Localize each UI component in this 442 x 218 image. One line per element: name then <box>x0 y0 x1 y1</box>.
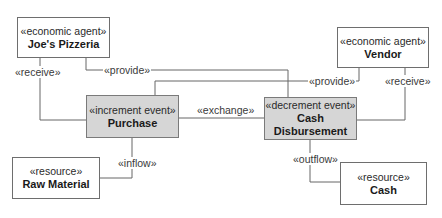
node-purchase[interactable]: «increment event» Purchase <box>86 95 179 138</box>
edge-label-outflow: «outflow» <box>292 153 339 165</box>
node-raw-material[interactable]: «resource» Raw Material <box>12 157 100 199</box>
node-cash[interactable]: «resource» Cash <box>340 162 427 205</box>
rea-diagram: «economic agent» Joe's Pizzeria «economi… <box>0 0 442 218</box>
stereotype-label: «economic agent» <box>340 35 426 48</box>
edge-label-vendor-provide: «provide» <box>308 75 356 87</box>
stereotype-label: «economic agent» <box>21 25 107 38</box>
node-vendor[interactable]: «economic agent» Vendor <box>337 27 429 68</box>
edge-label-inflow: «inflow» <box>117 157 158 169</box>
node-joes-pizzeria[interactable]: «economic agent» Joe's Pizzeria <box>17 17 110 58</box>
stereotype-label: «resource» <box>30 165 83 178</box>
node-cash-disbursement[interactable]: «decrement event» Cash Disbursement <box>264 97 357 140</box>
stereotype-label: «increment event» <box>89 104 175 117</box>
edge-label-joes-receive: «receive» <box>14 66 62 78</box>
edge-joes-provide <box>86 57 288 97</box>
edge-label-exchange: «exchange» <box>196 104 255 116</box>
node-name: Purchase <box>108 117 158 130</box>
node-name: Raw Material <box>22 178 89 191</box>
node-name: Vendor <box>364 48 401 61</box>
node-name-line1: Cash <box>297 112 324 125</box>
stereotype-label: «decrement event» <box>266 99 356 112</box>
node-name: Joe's Pizzeria <box>28 38 100 51</box>
stereotype-label: «resource» <box>357 171 410 184</box>
node-name-line2: Disbursement <box>274 125 347 138</box>
edge-label-joes-provide: «provide» <box>103 64 151 76</box>
node-name: Cash <box>370 184 397 197</box>
edge-label-vendor-receive: «receive» <box>384 75 432 87</box>
